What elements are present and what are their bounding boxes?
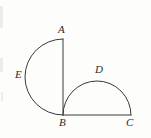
- vertex-label-B: B: [59, 117, 66, 128]
- vertex-label-D: D: [95, 64, 103, 75]
- geometry-figure: A B C D E: [0, 0, 151, 138]
- vertex-label-E: E: [15, 69, 22, 80]
- large-semicircle-AEB: [25, 39, 63, 115]
- vertex-label-C: C: [126, 117, 133, 128]
- vertex-label-A: A: [58, 24, 65, 35]
- small-semicircle-BDC: [63, 81, 131, 115]
